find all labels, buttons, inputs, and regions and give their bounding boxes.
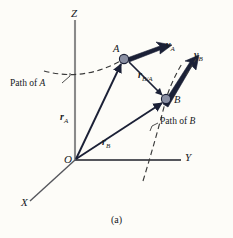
vector-label-r-B: rB	[102, 137, 110, 147]
vector-label-v-A: vA	[166, 40, 175, 50]
figure-caption: (a)	[0, 214, 233, 225]
origin-label: O	[64, 154, 72, 165]
axis-label-x: X	[21, 197, 28, 208]
vector-label-r-B-over-A: rB/A	[138, 70, 152, 80]
point-marker-A	[119, 54, 128, 63]
point-marker-B	[161, 94, 170, 103]
axis-label-y: Y	[185, 152, 191, 163]
path-of-B-leader	[150, 123, 158, 131]
diagram-canvas	[0, 0, 233, 238]
path-of-A-curve	[44, 59, 124, 75]
relative-motion-diagram: Z Y X O A B rA rB rB/A vA vB Path of A P…	[0, 0, 233, 238]
axis-x	[30, 160, 75, 201]
path-of-B-label: Path of B	[160, 117, 195, 127]
vector-label-v-B: vB	[194, 50, 203, 60]
vector-label-r-A: rA	[60, 112, 68, 122]
axis-label-z: Z	[71, 8, 77, 19]
path-of-A-label: Path of A	[10, 79, 45, 89]
point-label-B: B	[174, 95, 180, 106]
point-label-A: A	[113, 44, 119, 55]
